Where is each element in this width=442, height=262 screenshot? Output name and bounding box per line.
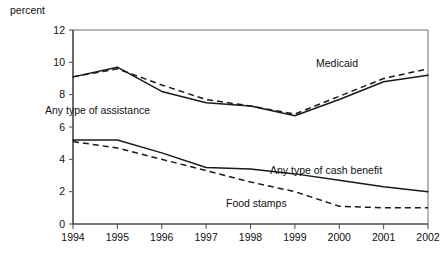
y-tick-label: 2 bbox=[59, 185, 65, 197]
x-tick-label: 1997 bbox=[194, 231, 218, 243]
x-tick-label: 1998 bbox=[239, 231, 263, 243]
y-axis-unit-label: percent bbox=[10, 4, 45, 16]
series-annotation-label: Any type of assistance bbox=[45, 104, 150, 116]
series-annotation-label: Medicaid bbox=[316, 57, 358, 69]
x-tick-label: 1999 bbox=[283, 231, 307, 243]
chart-container: percent 024681012 1994199519961997199819… bbox=[0, 0, 442, 262]
y-tick-label: 10 bbox=[53, 56, 65, 68]
y-tick-label: 12 bbox=[53, 24, 65, 36]
series-annotation-label: Any type of cash benefit bbox=[270, 164, 382, 176]
x-tick-label: 1994 bbox=[61, 231, 85, 243]
x-tick-label: 2000 bbox=[328, 231, 352, 243]
y-tick-label: 6 bbox=[59, 121, 65, 133]
y-tick-label: 8 bbox=[59, 88, 65, 100]
series-annotation-label: Food stamps bbox=[226, 197, 287, 209]
x-tick-label: 2002 bbox=[416, 231, 440, 243]
y-tick-label: 0 bbox=[59, 218, 65, 230]
x-tick-label: 1995 bbox=[106, 231, 130, 243]
y-tick-label: 4 bbox=[59, 153, 65, 165]
x-tick-label: 2001 bbox=[372, 231, 396, 243]
line-chart: percent 024681012 1994199519961997199819… bbox=[0, 0, 442, 262]
chart-background bbox=[0, 0, 442, 262]
x-tick-label: 1996 bbox=[150, 231, 174, 243]
